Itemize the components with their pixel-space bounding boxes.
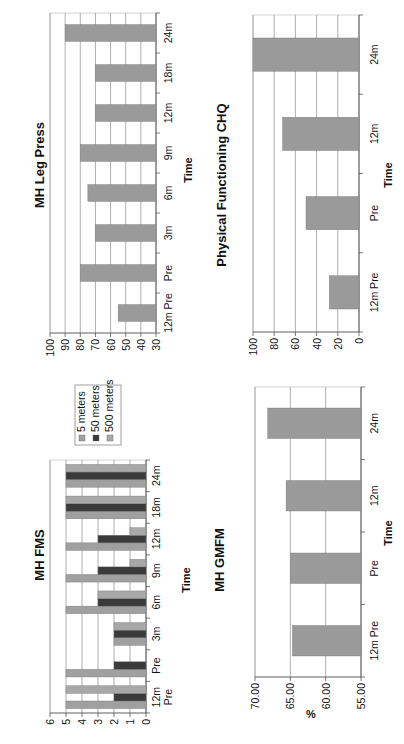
y-tick-label: 6 [44,719,56,725]
legend-swatch [93,435,99,441]
bar [66,701,146,709]
bar [66,480,146,488]
bar [66,574,146,582]
x-tick-label: 24m [150,465,162,486]
x-axis-label: Time [382,520,394,545]
x-tick-label: Pre [162,265,174,282]
x-tick-label: 12m Pre [368,272,380,312]
y-tick-label: 100 [44,339,56,357]
chart-title: MH Leg Press [32,122,47,208]
y-axis-label: % [306,708,316,720]
legend-label: 5 meters [75,391,87,432]
y-tick-label: 100 [247,338,259,356]
bar [98,599,146,607]
x-tick-label: 6m [162,185,174,200]
y-tick-label: 0 [140,719,152,725]
y-tick-label: 80 [268,338,280,350]
bar [130,559,146,567]
bar [306,196,359,229]
x-tick-label: 18m [162,63,174,84]
bar [66,606,146,614]
legend-swatch [107,435,113,441]
x-tick-label: 9m [150,563,162,578]
bar [329,276,359,309]
x-tick-label: 3m [162,225,174,240]
bar [66,669,146,677]
bar [286,481,361,511]
y-tick-label: 40 [311,338,323,350]
x-tick-label: Pre [368,205,380,222]
x-tick-label: 3m [150,626,162,641]
y-tick-label: 40 [135,339,147,351]
y-tick-label: 80 [74,339,86,351]
legend-label: 50 meters [89,385,101,432]
bar [66,511,146,519]
y-tick-label: 65.00 [284,683,296,709]
chart-mh-leg-press: MH Leg Press3040506070809010012m PrePre3… [0,0,200,372]
x-tick-label: 24m [368,413,380,434]
x-tick-label: 12m [368,485,380,506]
bar [253,38,359,71]
x-tick-label: 9m [162,145,174,160]
x-axis-label: Time [182,157,194,182]
bar [65,25,156,42]
legend-swatch [79,435,85,441]
bar [66,464,146,472]
x-tick-label: 12m [150,529,162,550]
y-tick-label: 55.00 [355,683,367,709]
y-tick-label: 2 [108,719,120,725]
y-tick-label: 20 [332,338,344,350]
y-tick-label: 60 [289,338,301,350]
x-tick-label: 24m [368,44,380,65]
legend-label: 500 meters [103,379,115,432]
bar [88,185,156,202]
bar [80,265,156,282]
bar [114,662,146,670]
bar [118,305,156,322]
y-tick-label: 30 [150,339,162,351]
bar [114,630,146,638]
x-tick-label: 12m [368,123,380,144]
bar [66,496,146,504]
y-tick-label: 50 [120,339,132,351]
bar [66,472,146,480]
bar [292,626,361,656]
x-tick-label: Pre [368,560,380,577]
y-tick-label: 90 [59,339,71,351]
bar [80,145,156,162]
x-tick-label: 12m [150,687,162,708]
y-tick-label: 0 [353,338,365,344]
figure-rotated: MH FMS012345612mPrePre3m6m9m12m18m24mTim… [0,0,404,744]
x-tick-label: 12m Pre [162,293,174,333]
x-tick-label: 12m Pre [368,621,380,661]
bar [114,693,146,701]
x-axis-label: Time [180,567,192,592]
y-tick-label: 70.00 [249,683,261,709]
bar [130,528,146,536]
chart-physical-functioning-chq: Physical Functioning CHQ02040608010012m … [200,0,404,372]
y-tick-label: 4 [76,719,88,725]
bar [95,65,156,82]
y-tick-label: 5 [60,719,72,725]
y-tick-label: 60 [105,339,117,351]
bar [98,535,146,543]
bar [98,591,146,599]
x-tick-label: 12m [162,103,174,124]
bar [98,567,146,575]
chart-title: MH FMS [32,529,47,581]
y-tick-label: 60.00 [320,683,332,709]
bar [114,638,146,646]
chart-title: Physical Functioning CHQ [214,103,229,266]
x-axis-label: Time [382,162,394,187]
x-tick-label: Pre [150,657,162,674]
bar [290,553,361,583]
y-tick-label: 3 [92,719,104,725]
bar [66,686,146,694]
bar [95,225,156,242]
x-tick-label: 6m [150,595,162,610]
chart-mh-gmfm: MH GMFM55.0060.0065.0070.0012m PrePre12m… [200,372,404,744]
bar [268,408,361,438]
chart-title: MH GMFM [212,528,227,592]
x-tick-label: Pre [162,689,174,706]
bar [283,117,359,150]
